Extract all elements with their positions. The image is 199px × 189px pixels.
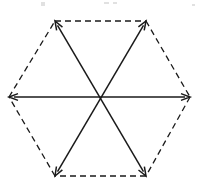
hexagon-diagonals-figure: Regular hexagon with three long diagonal… [0,0,199,189]
arrowhead-top-right [138,21,146,30]
edge-lower-left [9,97,55,176]
speck-1 [41,2,45,6]
speck-3 [113,2,117,4]
arrowhead-top-left [55,21,62,30]
edge-lower-right [146,97,190,176]
figure-canvas: Regular hexagon with three long diagonal… [0,0,199,189]
speck-2 [104,2,109,4]
speck-4 [192,4,195,6]
arrowhead-bottom-left [55,166,62,176]
hexagon-arrowheads [9,21,190,176]
arrowhead-bottom-right [139,167,147,176]
edge-upper-right [146,21,190,97]
hexagon-outline [9,21,190,176]
edge-upper-left [9,21,55,97]
